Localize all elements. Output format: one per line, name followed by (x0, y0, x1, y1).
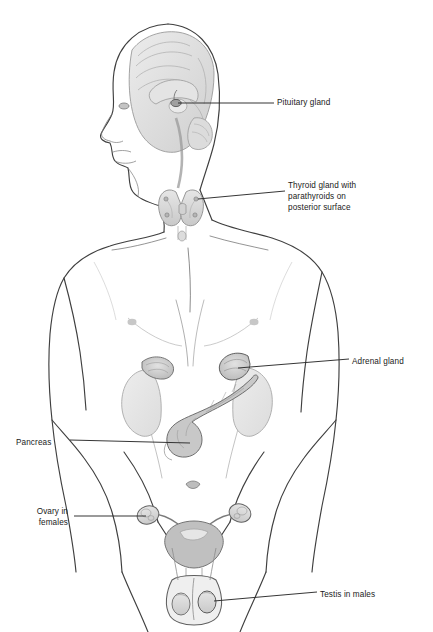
label-thyroid-gland-line3: posterior surface (288, 202, 351, 213)
testis-gland-left (172, 593, 190, 615)
label-pancreas: Pancreas (16, 437, 51, 448)
label-thyroid-gland-line1: Thyroid gland with (288, 180, 356, 191)
label-adrenal-gland: Adrenal gland (352, 356, 404, 367)
label-pituitary-gland: Pituitary gland (277, 97, 330, 108)
anatomy-illustration (0, 0, 433, 632)
label-testis: Testis in males (320, 589, 375, 600)
label-ovary-line2: females (0, 517, 68, 528)
testis-gland (198, 591, 216, 613)
label-thyroid-gland-line2: parathyroids on (288, 191, 346, 202)
endocrine-system-figure: Pituitary gland Thyroid gland with parat… (0, 0, 433, 632)
label-ovary-line1: Ovary in (0, 506, 68, 517)
